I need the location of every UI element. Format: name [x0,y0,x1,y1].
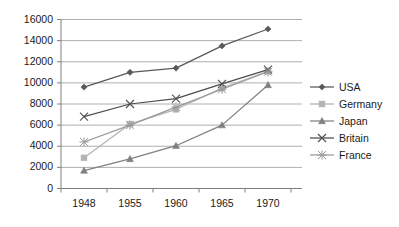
gridlines [61,20,302,168]
x-tick-label: 1955 [105,197,155,209]
y-tick-label: 2000 [0,160,53,172]
y-tick-label: 6000 [0,118,53,130]
line-chart: 0200040006000800010000120001400016000 19… [0,0,399,227]
legend-label: France [335,149,372,161]
legend-label: Britain [335,132,369,144]
x-tick-label: 1965 [197,197,247,209]
legend-marker-triangle-icon [309,114,335,128]
y-tick-label: 14000 [0,34,53,46]
legend-item-britain[interactable]: Britain [309,130,395,147]
y-axis-ticks [57,20,61,189]
y-tick-label: 16000 [0,13,53,25]
legend-marker-asterisk-icon [309,148,335,162]
series-japan [81,82,272,174]
legend-marker-square-icon [309,97,335,111]
y-tick-label: 10000 [0,76,53,88]
y-tick-label: 4000 [0,139,53,151]
y-tick-label: 8000 [0,97,53,109]
data-series-layer [79,26,272,173]
y-tick-label: 0 [0,182,53,194]
legend-item-japan[interactable]: Japan [309,112,395,129]
legend-label: USA [335,81,361,93]
legend-label: Japan [335,115,368,127]
x-tick-label: 1960 [151,197,201,209]
x-tick-label: 1948 [59,197,109,209]
x-tick-label: 1970 [243,197,293,209]
y-tick-label: 12000 [0,55,53,67]
legend-item-france[interactable]: France [309,147,395,164]
x-axis-ticks [61,189,291,193]
legend-item-usa[interactable]: USA [309,78,395,95]
chart-legend: USAGermanyJapanBritainFrance [309,78,395,164]
legend-marker-cross-icon [309,131,335,145]
legend-label: Germany [335,98,382,110]
legend-marker-diamond-icon [309,80,335,94]
legend-item-germany[interactable]: Germany [309,95,395,112]
